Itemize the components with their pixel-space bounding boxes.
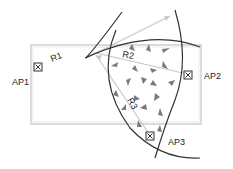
ap-range-diagram: AP1 AP2 AP3 R1 R2 R3 [0,0,233,169]
range-label-r2: R2 [122,49,135,61]
range-arcs [85,10,200,158]
ap3-label: AP3 [168,137,185,147]
arc-ap3-boundary [155,10,183,158]
ap3-marker[interactable] [146,132,154,140]
ray-r2 [96,53,187,74]
signal-rays [86,16,187,134]
ap1-marker[interactable] [34,63,42,71]
ap2-marker[interactable] [184,71,192,79]
ap2-label: AP2 [204,71,221,81]
arc-ap1-range [86,12,122,58]
range-label-r1: R1 [49,50,63,64]
ap1-label: AP1 [12,77,29,87]
signal-direction-arrows [111,44,175,132]
